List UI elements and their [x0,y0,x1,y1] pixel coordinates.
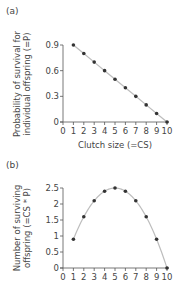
data-point [134,199,138,203]
data-point [134,95,138,99]
data-point [165,266,169,270]
x-tick-label: 9 [154,126,159,136]
data-point [82,52,86,56]
y-axis-title: offspring (=CS * P) [22,188,32,268]
x-tick-label: 8 [143,272,148,282]
x-tick-label: 7 [133,272,138,282]
y-tick-label: 0.5 [45,247,59,257]
x-tick-label: 7 [133,126,138,136]
data-point [113,77,117,81]
x-tick-label: 10 [162,272,173,282]
data-point [155,237,159,241]
y-tick-label: 0.3 [45,91,59,101]
x-tick-label: 6 [123,126,128,136]
x-tick-label: 10 [162,126,173,136]
data-point [92,199,96,203]
y-tick-label: 0 [54,263,59,273]
x-axis-title: Clutch size (=CS) [78,140,152,150]
x-tick-label: 0 [60,126,65,136]
x-tick-label: 0 [60,272,65,282]
series-line [73,188,167,268]
x-tick-label: 6 [123,272,128,282]
chart-canvas: 00.30.60.9012345678910Clutch size (=CS)P… [0,0,180,282]
x-tick-label: 2 [81,126,86,136]
data-point [144,215,148,219]
data-point [72,43,76,47]
y-axis-title: individual offspring (=P) [22,32,32,135]
x-tick-label: 4 [102,126,107,136]
x-tick-label: 3 [91,272,96,282]
y-axis-title: Number of surviving [12,185,22,272]
x-tick-label: 5 [112,272,117,282]
y-tick-label: 1.5 [45,215,59,225]
y-axis-title: Probability of survival for [12,30,22,137]
data-point [144,103,148,107]
data-point [82,215,86,219]
x-tick-label: 1 [71,272,76,282]
data-point [124,189,128,193]
data-point [103,69,107,73]
data-point [124,86,128,90]
data-point [103,189,107,193]
x-tick-label: 4 [102,272,107,282]
data-point [92,60,96,64]
y-tick-label: 0.9 [45,40,59,50]
x-tick-label: 5 [112,126,117,136]
data-point [155,112,159,116]
data-point [113,186,117,190]
y-tick-label: 0.6 [45,66,59,76]
y-tick-label: 2.5 [45,183,59,193]
x-tick-label: 2 [81,272,86,282]
y-tick-label: 0 [54,117,59,127]
x-tick-label: 3 [91,126,96,136]
x-tick-label: 9 [154,272,159,282]
x-tick-label: 1 [71,126,76,136]
data-point [165,120,169,124]
series-line [73,45,167,122]
data-point [72,237,76,241]
x-tick-label: 8 [143,126,148,136]
y-tick-label: 2 [54,199,59,209]
y-tick-label: 1 [54,231,59,241]
